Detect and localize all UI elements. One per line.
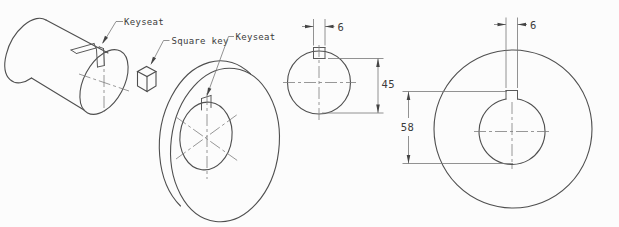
wheel-rim-ellipse [162,62,288,227]
shaft-bottom-silhouette [32,78,85,110]
shaft-back-arc [5,18,46,83]
hub-depth-value: 58 [401,121,414,133]
shaft-key-width-dimension: 6 [302,19,344,46]
technical-drawing-canvas: Keyseat Square key Keyseat 6 [0,0,619,227]
square-key [138,67,157,92]
shaft-end-view: 6 45 [283,19,395,121]
hub-end-view: 6 58 [401,18,592,209]
shaft-key-width-value: 6 [338,21,345,33]
leader-square-key-arrow [149,57,156,66]
hub-key-width-value: 6 [530,19,537,31]
wheel-outer-circle [434,50,592,208]
isometric-wheel [159,61,288,227]
hub-keyseat-label: Keyseat [236,32,276,42]
square-key-label: Square key [172,36,229,46]
keyseat-drawing: Keyseat Square key Keyseat 6 [0,0,619,227]
shaft-keyseat-slot [71,44,105,68]
shaft-depth-value: 45 [382,78,395,90]
wheel-hub-bore [176,99,236,173]
wheel-face-arc [159,61,250,206]
hub-key-width-dimension: 6 [494,18,537,89]
shaft-depth-dimension: 45 [322,59,395,114]
leader-shaft-keyseat-arrow [100,36,108,45]
hub-keyseat-notch [506,91,518,100]
key-top-face [138,67,157,77]
isometric-shaft [5,18,138,122]
pictorial-labels: Keyseat Square key Keyseat [100,17,275,97]
shaft-keyseat-label: Keyseat [124,17,164,27]
